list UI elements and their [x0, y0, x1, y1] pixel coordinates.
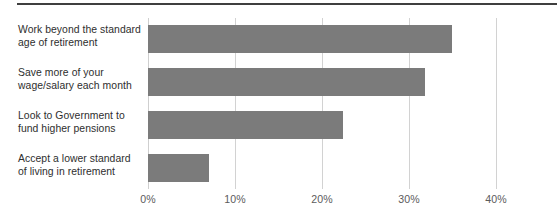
- xtick-label-3: 30%: [386, 193, 432, 205]
- xtick-label-4: 40%: [473, 193, 519, 205]
- category-label-0: Work beyond the standard age of retireme…: [18, 24, 144, 49]
- category-label-1: Save more of your wage/salary each month: [18, 67, 144, 92]
- xtick-label-0: 0%: [125, 193, 171, 205]
- chart-figure: Work beyond the standard age of retireme…: [0, 0, 557, 222]
- category-label-0-line-1: age of retirement: [18, 37, 144, 50]
- category-label-2: Look to Government to fund higher pensio…: [18, 110, 144, 135]
- category-label-3-line-0: Accept a lower standard: [18, 153, 144, 166]
- category-label-1-line-0: Save more of your: [18, 67, 144, 80]
- category-label-3: Accept a lower standard of living in ret…: [18, 153, 144, 178]
- bar-row-0: [148, 25, 452, 53]
- top-divider-rule: [17, 3, 557, 5]
- category-label-1-line-1: wage/salary each month: [18, 80, 144, 93]
- bar-1: [148, 68, 425, 96]
- bar-row-2: [148, 111, 343, 139]
- category-label-0-line-0: Work beyond the standard: [18, 24, 144, 37]
- xtick-label-1: 10%: [212, 193, 258, 205]
- bar-0: [148, 25, 452, 53]
- category-label-3-line-1: of living in retirement: [18, 166, 144, 179]
- bar-row-1: [148, 68, 425, 96]
- gridline-40: [496, 18, 497, 189]
- bar-row-3: [148, 154, 209, 182]
- category-label-2-line-1: fund higher pensions: [18, 123, 144, 136]
- category-label-2-line-0: Look to Government to: [18, 110, 144, 123]
- xtick-label-2: 20%: [299, 193, 345, 205]
- bar-3: [148, 154, 209, 182]
- plot-area: [148, 18, 496, 189]
- bar-2: [148, 111, 343, 139]
